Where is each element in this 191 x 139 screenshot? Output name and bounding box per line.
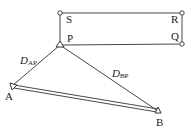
label-d-bp: DBP [111,67,129,80]
label-p: P [67,32,73,44]
point-r-marker-icon [180,11,184,15]
label-q: Q [171,30,179,42]
label-r: R [171,13,179,25]
label-a: A [5,90,13,102]
rectangle-srqp [60,13,182,45]
baseline-ab [14,85,158,112]
label-b: B [156,116,163,128]
label-d-ap: DAP [19,54,37,67]
station-a-triangle-icon [10,83,17,90]
point-q-marker-icon [180,42,184,46]
station-p-triangle-icon [56,41,64,47]
label-s: S [66,13,72,25]
point-s-marker-icon [58,11,62,15]
survey-diagram: S R Q P A B DAP DBP [0,0,191,139]
